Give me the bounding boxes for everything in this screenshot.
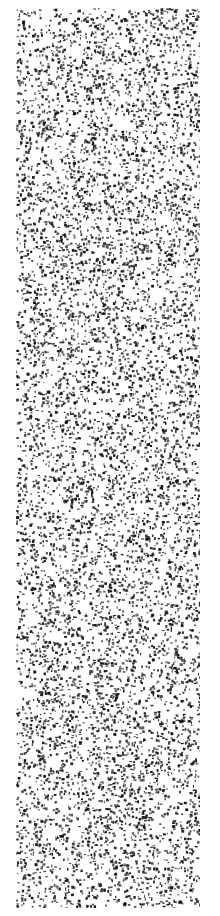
speckle-noise-field [16, 8, 200, 908]
noise-canvas [0, 0, 220, 916]
speckle-texture [16, 8, 200, 908]
